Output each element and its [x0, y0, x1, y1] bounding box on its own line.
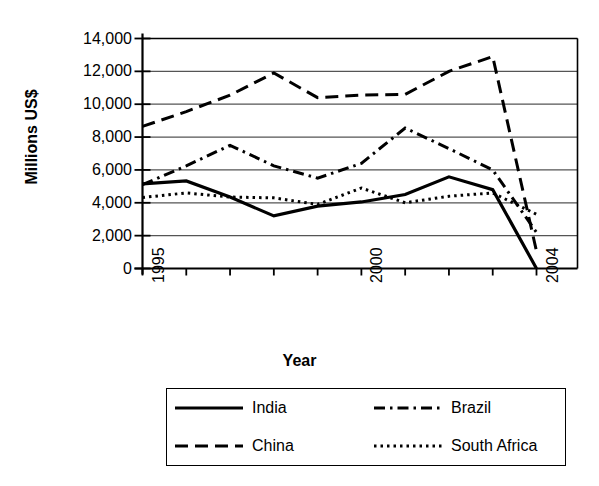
x-axis-title: Year: [0, 352, 599, 370]
x-tick-label: 2000: [369, 247, 385, 283]
chart-legend: IndiaBrazilChinaSouth Africa: [166, 388, 566, 466]
legend-label: Brazil: [451, 399, 491, 417]
legend-swatch-brazil: [372, 401, 444, 415]
legend-label: India: [252, 399, 287, 417]
legend-entry: China: [167, 427, 366, 465]
x-tick-label: 1995: [151, 247, 167, 283]
legend-label: South Africa: [451, 437, 537, 455]
series-line-china: [143, 57, 537, 252]
plot-area: [0, 0, 599, 300]
legend-entry: South Africa: [366, 427, 565, 465]
legend-swatch-india: [173, 401, 245, 415]
legend-swatch-south-africa: [372, 439, 444, 453]
series-line-india: [143, 177, 537, 269]
series-line-south-africa: [143, 188, 537, 214]
legend-swatch-china: [173, 439, 245, 453]
series-line-brazil: [143, 128, 537, 232]
legend-label: China: [252, 437, 294, 455]
line-chart-figure: Millions US$ 14,00012,00010,0008,0006,00…: [0, 0, 599, 486]
legend-entry: Brazil: [366, 389, 565, 427]
x-tick-label: 2004: [545, 247, 561, 283]
legend-entry: India: [167, 389, 366, 427]
